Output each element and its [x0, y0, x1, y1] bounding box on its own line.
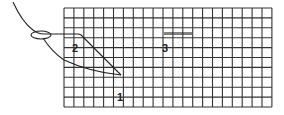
- thread-tail: [13, 2, 44, 34]
- stitch-lines: [13, 2, 192, 75]
- step-label-1: 1: [117, 92, 123, 103]
- step-label-2: 2: [72, 43, 78, 54]
- stitch-2-return: [43, 38, 121, 75]
- canvas-grid: [0, 0, 284, 115]
- step-label-3: 3: [162, 43, 168, 54]
- stitch-diagram: 1 2 3: [0, 0, 284, 115]
- needle-eye-icon: [31, 31, 51, 39]
